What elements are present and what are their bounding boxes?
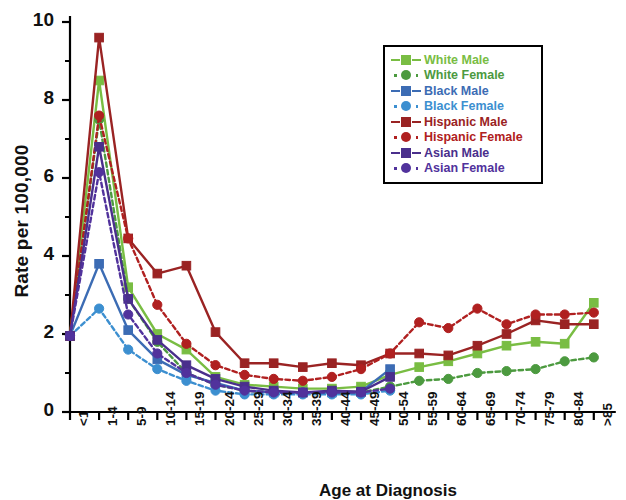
x-tick-label: 60-64 [454, 391, 469, 426]
x-tick-label: 30-34 [280, 391, 295, 426]
data-point [560, 320, 569, 329]
x-tick-label: 50-54 [396, 391, 411, 426]
data-point [153, 269, 162, 278]
x-tick-label: 15-19 [192, 391, 207, 426]
y-tick-label: 10 [14, 9, 54, 31]
legend-label: Black Female [421, 99, 504, 113]
series-black-female [65, 304, 394, 399]
legend-item[interactable]: Hispanic Female [391, 130, 535, 146]
x-tick-label: 65-69 [483, 391, 498, 426]
data-point [415, 376, 424, 385]
legend-key-icon [391, 131, 421, 143]
line-chart: Rate per 100,000 Age at Diagnosis White … [0, 0, 626, 500]
data-point [240, 370, 249, 379]
legend-item[interactable]: Asian Female [391, 161, 535, 177]
data-point [560, 357, 569, 366]
x-tick-label: 75-79 [542, 391, 557, 426]
legend-item[interactable]: Black Female [391, 99, 535, 115]
data-point [95, 260, 104, 269]
data-point [590, 299, 599, 308]
data-point [240, 386, 249, 395]
data-point [269, 388, 278, 397]
data-point [153, 300, 162, 309]
data-point [95, 143, 104, 152]
data-point [560, 339, 569, 348]
data-point [95, 33, 104, 42]
data-point [386, 384, 395, 393]
legend-label: White Male [421, 53, 489, 67]
legend-item[interactable]: Hispanic Male [391, 114, 535, 130]
data-point [589, 308, 598, 317]
chart-legend: White MaleWhite FemaleBlack MaleBlack Fe… [383, 45, 543, 184]
y-tick-label: 0 [14, 399, 54, 421]
legend-item[interactable]: Black Male [391, 83, 535, 99]
data-point [444, 324, 453, 333]
legend-label: Asian Female [421, 161, 505, 175]
legend-key-icon [391, 147, 421, 159]
data-point [240, 359, 249, 368]
data-point [65, 331, 74, 340]
x-tick-label: 5-9 [134, 406, 149, 426]
data-point [182, 339, 191, 348]
data-point [356, 388, 365, 397]
data-point [531, 338, 540, 347]
data-point [328, 359, 337, 368]
data-point [415, 349, 424, 358]
data-point [269, 359, 278, 368]
data-point [444, 351, 453, 360]
data-point [124, 310, 133, 319]
x-tick-label: 80-84 [571, 391, 586, 426]
data-point [211, 328, 220, 337]
legend-key-icon [391, 162, 421, 174]
x-tick-label: 45-49 [367, 391, 382, 426]
data-point [386, 349, 395, 358]
data-point [502, 320, 511, 329]
data-point [153, 336, 162, 345]
legend-item[interactable]: White Male [391, 52, 535, 68]
data-point [327, 372, 336, 381]
legend-label: Hispanic Female [421, 130, 523, 144]
x-tick-label: <1 [76, 411, 91, 426]
x-tick-label: 70-74 [513, 391, 528, 426]
data-point [211, 361, 220, 370]
x-tick-label: 35-39 [309, 391, 324, 426]
data-point [356, 365, 365, 374]
y-tick-label: 4 [14, 243, 54, 265]
legend-key-icon [391, 54, 421, 66]
legend-label: Asian Male [421, 146, 489, 160]
data-point [153, 365, 162, 374]
series-black-male [66, 260, 395, 397]
data-point [473, 368, 482, 377]
legend-label: White Female [421, 68, 505, 82]
x-tick-label: 1-4 [105, 406, 120, 426]
legend-label: Black Male [421, 84, 489, 98]
x-tick-label: >85 [600, 403, 615, 426]
legend-key-icon [391, 69, 421, 81]
legend-item[interactable]: White Female [391, 68, 535, 84]
legend-label: Hispanic Male [421, 115, 507, 129]
data-point [386, 373, 395, 382]
legend-item[interactable]: Asian Male [391, 145, 535, 161]
data-point [590, 320, 599, 329]
data-point [124, 345, 133, 354]
data-point [269, 374, 278, 383]
data-point [124, 234, 133, 243]
legend-key-icon [391, 116, 421, 128]
data-point [589, 353, 598, 362]
data-point [153, 349, 162, 358]
data-point [560, 310, 569, 319]
x-tick-label: 55-59 [425, 391, 440, 426]
series-asian-female [65, 168, 394, 398]
data-point [182, 368, 191, 377]
y-tick-label: 8 [14, 87, 54, 109]
data-point [502, 341, 511, 350]
data-point [531, 365, 540, 374]
x-tick-label: 10-14 [163, 391, 178, 426]
x-tick-label: 20-24 [222, 391, 237, 426]
x-tick-label: 40-44 [338, 391, 353, 426]
data-point [299, 363, 308, 372]
legend-key-icon [391, 100, 421, 112]
data-point [95, 304, 104, 313]
data-point [211, 380, 220, 389]
data-point [531, 310, 540, 319]
